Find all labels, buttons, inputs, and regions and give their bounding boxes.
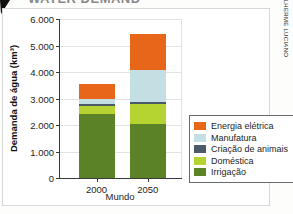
bar-segment bbox=[79, 114, 115, 178]
y-axis-tick-label: 1.000 bbox=[30, 146, 54, 157]
bar-2050 bbox=[130, 34, 166, 178]
y-axis-tick-label: 4.000 bbox=[30, 67, 54, 78]
x-axis-title: Mundo bbox=[59, 191, 181, 202]
y-axis-tick bbox=[56, 152, 60, 153]
legend-swatch bbox=[194, 134, 206, 142]
legend-label: Doméstica bbox=[211, 156, 254, 166]
chart-card: Demanda de água (km³) 01.0002.0003.0004.… bbox=[2, 8, 270, 206]
bar-segment bbox=[79, 106, 115, 114]
y-axis-tick-label: 0 bbox=[49, 173, 54, 184]
legend-label: Criação de animais bbox=[211, 144, 288, 154]
bar-segment bbox=[130, 70, 166, 102]
legend-label: Manufatura bbox=[211, 133, 257, 143]
legend-swatch bbox=[194, 157, 206, 165]
legend-item: Doméstica bbox=[194, 156, 288, 166]
legend-swatch bbox=[194, 145, 206, 153]
x-axis-tick bbox=[97, 178, 98, 182]
legend-label: Irrigação bbox=[211, 167, 246, 177]
legend-item: Irrigação bbox=[194, 167, 288, 177]
bar-segment bbox=[130, 34, 166, 70]
y-axis-title-label: Demanda de água (km³) bbox=[9, 45, 20, 152]
y-axis-tick-label: 3.000 bbox=[30, 93, 54, 104]
plot-area: 01.0002.0003.0004.0005.0006.000 20002050 bbox=[59, 19, 182, 179]
legend-item: Criação de animais bbox=[194, 144, 288, 154]
y-axis-tick-label: 6.000 bbox=[30, 14, 54, 25]
bar-segment bbox=[130, 124, 166, 178]
bar-segment bbox=[130, 104, 166, 124]
y-axis-tick-label: 2.000 bbox=[30, 120, 54, 131]
bar-2000 bbox=[79, 84, 115, 178]
y-axis-tick bbox=[56, 178, 60, 179]
y-axis-title: Demanda de água (km³) bbox=[7, 19, 21, 178]
page-root: WATER DEMAND Demanda de água (km³) 01.00… bbox=[0, 0, 293, 214]
image-credit-text: ERICSON GUILHERME LUCIANO bbox=[283, 0, 289, 57]
clipped-title-text: WATER DEMAND bbox=[28, 0, 141, 6]
legend-swatch bbox=[194, 168, 206, 176]
y-axis-tick bbox=[56, 99, 60, 100]
y-axis-tick bbox=[56, 125, 60, 126]
y-axis-tick bbox=[56, 72, 60, 73]
y-axis-tick-label: 5.000 bbox=[30, 40, 54, 51]
legend-item: Manufatura bbox=[194, 133, 288, 143]
legend-item: Energia elétrica bbox=[194, 121, 288, 131]
legend-label: Energia elétrica bbox=[211, 121, 274, 131]
legend-swatch bbox=[194, 122, 206, 130]
image-credit: ERICSON GUILHERME LUCIANO bbox=[279, 0, 293, 214]
gridline bbox=[60, 19, 182, 20]
y-axis-tick bbox=[56, 19, 60, 20]
x-axis-tick bbox=[148, 178, 149, 182]
chart-legend: Energia elétricaManufaturaCriação de ani… bbox=[189, 115, 293, 183]
y-axis-tick bbox=[56, 46, 60, 47]
clipped-title-strip: WATER DEMAND bbox=[0, 0, 293, 7]
bar-segment bbox=[79, 84, 115, 99]
